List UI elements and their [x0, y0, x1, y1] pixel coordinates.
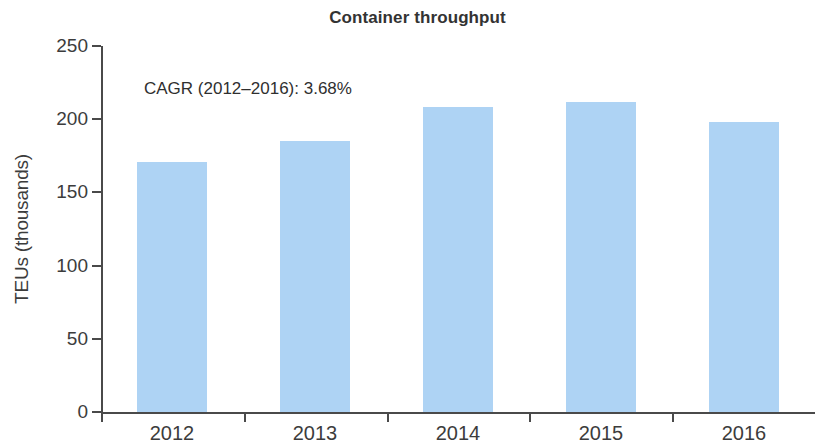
x-tick-mark	[672, 412, 674, 422]
cagr-annotation: CAGR (2012–2016): 3.68%	[144, 79, 352, 99]
bar-2013	[280, 141, 350, 412]
y-tick-mark	[92, 338, 101, 340]
container-throughput-bar-chart: Container throughput TEUs (thousands) 05…	[0, 0, 815, 447]
bar-2016	[709, 122, 779, 412]
x-tick-label-2016: 2016	[722, 422, 767, 445]
y-tick-label: 100	[56, 254, 88, 276]
y-tick-label: 0	[77, 401, 88, 423]
y-axis-title: TEUs (thousands)	[0, 46, 44, 412]
y-tick-mark	[92, 265, 101, 267]
y-tick-label: 250	[56, 35, 88, 57]
plot-area: 050100150200250 20122013201420152016 CAG…	[101, 46, 815, 412]
y-tick-mark	[92, 411, 101, 413]
x-tick-label-2015: 2015	[579, 422, 624, 445]
bar-2014	[423, 107, 493, 412]
y-tick-mark	[92, 191, 101, 193]
x-tick-label-2012: 2012	[150, 422, 195, 445]
bar-2015	[566, 102, 636, 412]
y-axis-title-text: TEUs (thousands)	[11, 154, 33, 304]
x-tick-mark	[387, 412, 389, 422]
x-tick-mark	[101, 412, 103, 422]
y-tick-label: 200	[56, 108, 88, 130]
y-tick-mark	[92, 45, 101, 47]
x-tick-label-2014: 2014	[436, 422, 481, 445]
x-tick-mark	[529, 412, 531, 422]
x-tick-mark	[244, 412, 246, 422]
y-tick-label: 50	[67, 327, 88, 349]
chart-title: Container throughput	[0, 8, 815, 28]
y-tick-label: 150	[56, 181, 88, 203]
y-axis-line	[101, 46, 103, 412]
y-tick-mark	[92, 118, 101, 120]
x-axis-line	[101, 412, 815, 414]
bar-2012	[137, 162, 207, 412]
x-tick-label-2013: 2013	[293, 422, 338, 445]
